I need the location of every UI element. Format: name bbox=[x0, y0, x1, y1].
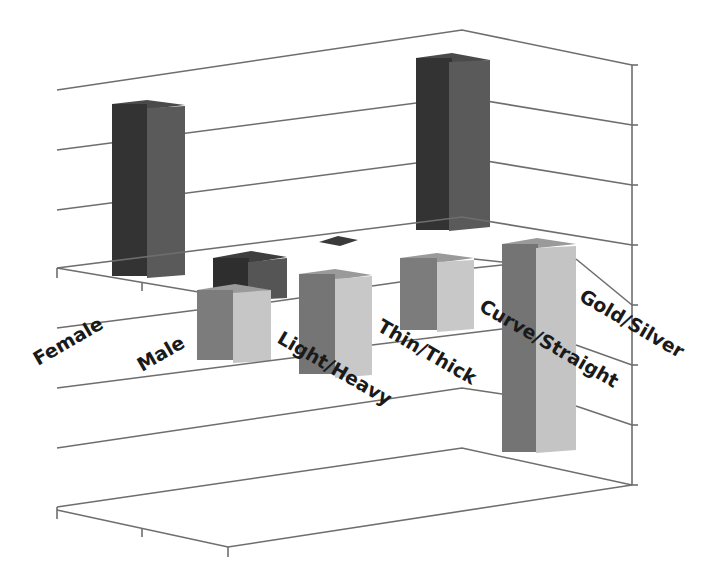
bar-thin-thick-front bbox=[400, 253, 474, 332]
label-male: Male bbox=[133, 331, 188, 376]
right-axis bbox=[632, 65, 638, 485]
bar-thin-thick-back-zero bbox=[319, 236, 358, 246]
chart-3d-bar: Female Male Light/Heavy Thin/Thick Curve… bbox=[0, 0, 717, 588]
label-female: Female bbox=[29, 312, 107, 370]
bar-female-back bbox=[112, 100, 185, 278]
bar-male-front bbox=[197, 284, 271, 363]
gridline-top bbox=[57, 30, 632, 90]
bar-curve-straight-back bbox=[416, 53, 490, 231]
chart-canvas: Female Male Light/Heavy Thin/Thick Curve… bbox=[0, 0, 717, 588]
